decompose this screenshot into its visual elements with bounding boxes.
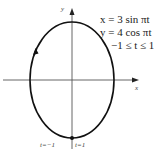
equation-range: −1 ≤ t ≤ 1 bbox=[111, 39, 154, 51]
end-label: t=1 bbox=[75, 141, 85, 149]
x-axis-label: x bbox=[135, 84, 138, 92]
equation-x: x = 3 sin πt bbox=[100, 13, 150, 25]
equation-y: y = 4 cos πt bbox=[100, 26, 151, 38]
start-label: t=−1 bbox=[40, 141, 55, 149]
y-axis-label: y bbox=[61, 5, 64, 13]
x-axis-arrow-icon bbox=[132, 78, 139, 83]
direction-arrow-icon bbox=[33, 48, 39, 55]
y-axis-arrow-icon bbox=[70, 8, 75, 15]
start-end-point bbox=[70, 136, 74, 140]
